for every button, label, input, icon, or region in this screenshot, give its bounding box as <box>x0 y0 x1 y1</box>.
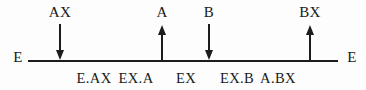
segment-label-e-ax: E.AX <box>76 70 111 87</box>
arrow-shaft <box>309 33 311 61</box>
marker-bx-label: BX <box>299 4 321 21</box>
arrow-head <box>56 50 64 60</box>
arrow-shaft <box>208 24 210 52</box>
arrow-head <box>158 25 166 35</box>
segment-label-a-bx: A.BX <box>260 70 296 87</box>
marker-a-label: A <box>156 4 167 21</box>
segment-label-ex: EX <box>176 70 196 87</box>
arrow-shaft <box>161 33 163 61</box>
axis-left-label: E <box>13 49 22 66</box>
arrow-shaft <box>59 24 61 52</box>
marker-b-label: B <box>204 4 214 21</box>
arrow-head <box>205 50 213 60</box>
timeline-diagram: E E AX A B BX E.AX EX.A EX EX.B A.BX <box>0 0 366 90</box>
marker-ax-label: AX <box>49 4 71 21</box>
arrow-head <box>306 25 314 35</box>
axis-line <box>28 60 338 62</box>
axis-right-label: E <box>347 49 356 66</box>
segment-label-ex-a: EX.A <box>118 70 153 87</box>
segment-label-ex-b: EX.B <box>220 70 254 87</box>
